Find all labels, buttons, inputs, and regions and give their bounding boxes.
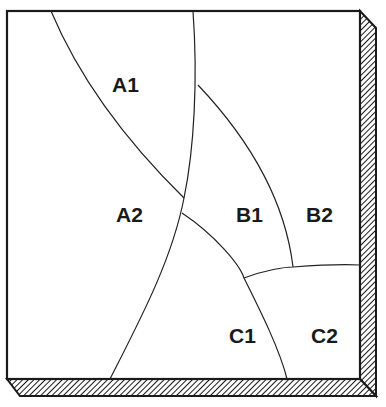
slab-right-edge xyxy=(360,11,376,396)
region-label-c1: C1 xyxy=(229,324,256,347)
region-label-c2: C2 xyxy=(311,324,338,347)
region-label-b1: B1 xyxy=(236,203,263,226)
region-label-a2: A2 xyxy=(116,203,143,226)
partition-diagram: A1 A2 B1 B2 C1 C2 xyxy=(0,0,386,407)
region-label-b2: B2 xyxy=(306,203,333,226)
region-label-a1: A1 xyxy=(112,73,139,96)
slab-face xyxy=(7,11,360,379)
slab-bottom-edge xyxy=(7,379,376,396)
